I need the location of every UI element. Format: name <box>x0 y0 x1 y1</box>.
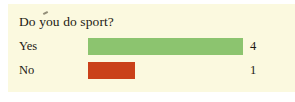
screenshot-root: Do you do sport? Yes 4 No 1 <box>0 0 295 102</box>
bar-track <box>88 36 243 56</box>
poster-panel: Do you do sport? Yes 4 No 1 <box>8 4 295 92</box>
bar-fill-no <box>88 62 135 79</box>
bar-row: No 1 <box>8 60 295 82</box>
bar-category-label: Yes <box>19 38 79 54</box>
chart-title: Do you do sport? <box>19 14 114 30</box>
bar-track <box>88 60 243 80</box>
bar-category-label: No <box>19 62 79 78</box>
bar-value-label: 1 <box>250 62 280 78</box>
bar-value-label: 4 <box>250 38 280 54</box>
bar-fill-yes <box>88 38 243 55</box>
bar-row: Yes 4 <box>8 36 295 58</box>
survey-bar-chart: Do you do sport? Yes 4 No 1 <box>8 4 295 92</box>
